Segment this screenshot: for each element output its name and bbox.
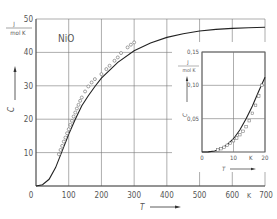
x-axis-symbol: T xyxy=(140,203,145,212)
x-tick-label: 100 xyxy=(62,191,76,200)
data-point-marker xyxy=(87,85,90,88)
data-point-marker xyxy=(66,132,69,135)
inset-data-point-marker xyxy=(254,104,257,107)
x-tick-label: 500 xyxy=(193,191,207,200)
inset-y-tick-label: 0,15 xyxy=(187,48,199,55)
inset-data-point-marker xyxy=(242,130,245,133)
data-point-marker xyxy=(64,136,67,139)
data-point-marker xyxy=(90,81,93,84)
data-point-marker xyxy=(113,59,116,62)
inset-y-symbol: C xyxy=(181,113,188,117)
data-point-marker xyxy=(93,78,96,81)
chart-title: NiO xyxy=(58,33,74,44)
inset-x-tick-label: 10 xyxy=(230,154,237,161)
x-axis-unit: K xyxy=(247,192,252,200)
inset-data-point-marker xyxy=(257,95,260,98)
y-unit-numerator: J xyxy=(12,20,15,28)
inset-data-point-marker xyxy=(223,146,226,149)
inset-data-point-marker xyxy=(261,84,264,87)
inset-data-point-marker xyxy=(239,133,242,136)
x-tick-label: 0 xyxy=(29,191,34,200)
data-point-marker xyxy=(61,144,64,147)
data-point-marker xyxy=(129,43,132,46)
inset-data-point-marker xyxy=(232,139,235,142)
x-tick-label: 400 xyxy=(160,191,174,200)
y-tick-label: 40 xyxy=(24,48,34,57)
x-tick-label: 700 xyxy=(259,191,273,200)
data-point-marker xyxy=(108,64,111,67)
heat-capacity-chart: 01002003004005006007001020304050 01020K0… xyxy=(0,0,277,219)
data-point-marker xyxy=(57,153,60,156)
data-point-marker xyxy=(62,140,65,143)
inset-x-unit: K xyxy=(249,154,253,161)
data-point-marker xyxy=(72,115,75,118)
y-tick-label: 10 xyxy=(24,149,34,158)
inset-y-tick-label: 0,10 xyxy=(187,81,200,88)
data-point-marker xyxy=(79,99,82,102)
data-point-marker xyxy=(116,56,119,59)
data-point-marker xyxy=(69,123,72,126)
inset-chart: 01020K0,050,100,15Jmol KCT xyxy=(172,42,269,172)
data-point-marker xyxy=(105,68,108,71)
inset-data-point-marker xyxy=(220,147,223,150)
inset-x-tick-label: 20 xyxy=(262,154,269,161)
inset-data-point-marker xyxy=(229,142,232,145)
data-point-marker xyxy=(100,73,103,76)
data-point-marker xyxy=(84,90,87,93)
y-axis-symbol: C xyxy=(7,107,16,112)
data-point-marker xyxy=(120,52,123,55)
data-point-marker xyxy=(70,119,73,122)
inset-x-tick-label: 0 xyxy=(200,154,204,161)
data-point-marker xyxy=(74,111,77,114)
inset-data-point-marker xyxy=(235,137,238,140)
data-point-marker xyxy=(75,107,78,110)
data-point-marker xyxy=(77,103,80,106)
data-point-marker xyxy=(67,128,70,131)
data-point-marker xyxy=(80,96,83,99)
y-unit-denominator: mol K xyxy=(10,29,26,36)
inset-y-tick-label: 0,05 xyxy=(187,115,199,122)
inset-data-point-marker xyxy=(251,112,254,115)
x-axis-arrow-icon xyxy=(150,206,181,209)
x-tick-label: 200 xyxy=(95,191,109,200)
inset-data-point-marker xyxy=(216,149,219,152)
y-tick-label: 30 xyxy=(24,82,34,91)
inset-y-unit-denominator: mol K xyxy=(183,67,197,73)
y-tick-label: 20 xyxy=(24,115,34,124)
y-axis-arrow-icon xyxy=(14,66,17,100)
data-point-marker xyxy=(59,148,62,151)
x-tick-label: 300 xyxy=(127,191,141,200)
x-tick-label: 600 xyxy=(225,191,239,200)
y-tick-label: 50 xyxy=(24,15,34,24)
data-point-marker xyxy=(133,41,136,44)
inset-data-point-marker xyxy=(248,119,251,122)
inset-y-unit-numerator: J xyxy=(186,59,188,65)
inset-data-point-marker xyxy=(245,125,248,128)
data-point-marker xyxy=(126,46,129,49)
inset-data-point-marker xyxy=(226,144,229,147)
